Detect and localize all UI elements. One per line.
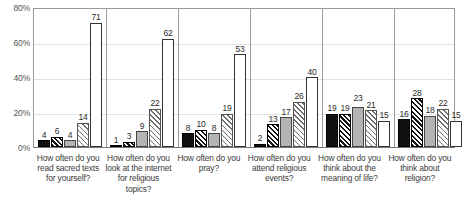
bar-wrapper: 19 — [339, 114, 351, 147]
bar-group: 1392262 — [106, 9, 178, 147]
bar-wrapper: 4 — [38, 140, 50, 147]
bar[interactable]: 62 — [162, 39, 174, 148]
bar[interactable]: 40 — [306, 77, 318, 147]
bar-wrapper: 1 — [110, 145, 122, 147]
bar-value-label: 23 — [354, 94, 363, 103]
bar[interactable]: 8 — [182, 133, 194, 147]
bar-value-label: 6 — [55, 127, 59, 136]
bar-value-label: 4 — [68, 131, 72, 140]
bar-wrapper: 62 — [162, 39, 174, 148]
bar[interactable]: 71 — [90, 23, 102, 147]
bar-group: 4641471 — [34, 9, 106, 147]
bar-wrapper: 53 — [234, 54, 246, 147]
bar-value-label: 22 — [151, 99, 160, 108]
bar[interactable]: 19 — [339, 114, 351, 147]
category-axis-labels: How often do you read sacred texts for y… — [33, 150, 455, 205]
bar-wrapper: 17 — [280, 117, 292, 147]
bar[interactable]: 17 — [280, 117, 292, 147]
bar-value-label: 15 — [452, 111, 461, 120]
bar-wrapper: 19 — [221, 114, 233, 147]
bar-wrapper: 22 — [149, 109, 161, 148]
bar-wrapper: 3 — [123, 142, 135, 147]
bar-value-label: 14 — [79, 113, 88, 122]
y-axis-tick-label: 0% — [18, 143, 30, 153]
bar[interactable]: 16 — [398, 119, 410, 147]
bar-value-label: 17 — [282, 108, 291, 117]
bar-wrapper: 40 — [306, 77, 318, 147]
bar[interactable]: 19 — [326, 114, 338, 147]
bar-value-label: 26 — [295, 92, 304, 101]
bar-wrapper: 18 — [424, 116, 436, 148]
bar[interactable]: 15 — [378, 121, 390, 147]
bar-chart: 0%20%40%60%80% 4641471139226281081953213… — [0, 0, 465, 205]
category-label: How often do you think about religion? — [385, 150, 455, 205]
bar[interactable]: 4 — [64, 140, 76, 147]
bar[interactable]: 26 — [293, 102, 305, 148]
bar-value-label: 22 — [439, 99, 448, 108]
bar[interactable]: 23 — [352, 107, 364, 147]
bar[interactable]: 10 — [195, 130, 207, 148]
bar-wrapper: 15 — [378, 121, 390, 147]
bar-value-label: 10 — [197, 120, 206, 129]
bar-wrapper: 23 — [352, 107, 364, 147]
bar-wrapper: 15 — [450, 121, 462, 147]
category-label: How often do you look at the internet fo… — [103, 150, 173, 205]
y-axis-tick-label: 40% — [14, 73, 30, 83]
bar-group: 81081953 — [178, 9, 250, 147]
bar-groups: 4641471139226281081953213172640191923211… — [34, 9, 454, 147]
bar-wrapper: 14 — [77, 123, 89, 148]
bar-value-label: 53 — [236, 45, 245, 54]
y-axis-tick-label: 80% — [14, 3, 30, 13]
bar[interactable]: 19 — [221, 114, 233, 147]
bar-group: 1919232115 — [322, 9, 394, 147]
bar[interactable]: 13 — [267, 124, 279, 147]
bar-wrapper: 71 — [90, 23, 102, 147]
bar[interactable]: 9 — [136, 131, 148, 147]
bar-wrapper: 2 — [254, 144, 266, 148]
bar-value-label: 19 — [341, 104, 350, 113]
bar-wrapper: 8 — [208, 133, 220, 147]
bar-wrapper: 26 — [293, 102, 305, 148]
bar-value-label: 4 — [42, 131, 46, 140]
bar-value-label: 16 — [400, 110, 409, 119]
bar[interactable]: 21 — [365, 110, 377, 147]
bar-wrapper: 9 — [136, 131, 148, 147]
bar-wrapper: 22 — [437, 109, 449, 148]
bar-value-label: 13 — [269, 115, 278, 124]
bar[interactable]: 6 — [51, 137, 63, 148]
bar-wrapper: 16 — [398, 119, 410, 147]
bar-value-label: 19 — [223, 104, 232, 113]
bar[interactable]: 3 — [123, 142, 135, 147]
bar-value-label: 3 — [127, 132, 131, 141]
bar[interactable]: 8 — [208, 133, 220, 147]
bar-value-label: 28 — [413, 89, 422, 98]
bar-wrapper: 6 — [51, 137, 63, 148]
plot-area: 4641471139226281081953213172640191923211… — [33, 8, 455, 148]
bar[interactable]: 28 — [411, 98, 423, 147]
bar-wrapper: 28 — [411, 98, 423, 147]
bar[interactable]: 4 — [38, 140, 50, 147]
bar-value-label: 19 — [328, 104, 337, 113]
bar-value-label: 9 — [140, 122, 144, 131]
bar[interactable]: 1 — [110, 145, 122, 147]
bar[interactable]: 14 — [77, 123, 89, 148]
bar-wrapper: 8 — [182, 133, 194, 147]
category-label: How often do you think about the meaning… — [314, 150, 384, 205]
bar-value-label: 18 — [426, 106, 435, 115]
bar-value-label: 71 — [92, 13, 101, 22]
bar-value-label: 8 — [186, 124, 190, 133]
bar-value-label: 1 — [114, 136, 118, 145]
bar-group: 1628182215 — [394, 9, 465, 147]
bar[interactable]: 2 — [254, 144, 266, 148]
y-axis-tick-label: 60% — [14, 38, 30, 48]
bar[interactable]: 15 — [450, 121, 462, 147]
bar-value-label: 21 — [367, 101, 376, 110]
category-label: How often do you pray? — [174, 150, 244, 205]
bar[interactable]: 22 — [437, 109, 449, 148]
bar[interactable]: 18 — [424, 116, 436, 148]
bar-value-label: 8 — [212, 124, 216, 133]
bar-wrapper: 13 — [267, 124, 279, 147]
bar[interactable]: 53 — [234, 54, 246, 147]
bar-wrapper: 21 — [365, 110, 377, 147]
bar[interactable]: 22 — [149, 109, 161, 148]
